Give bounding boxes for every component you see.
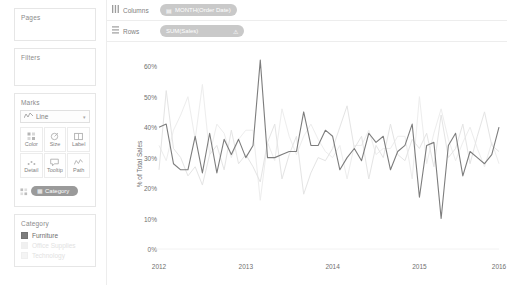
dimension-icon: ▦ bbox=[37, 188, 43, 194]
rows-shelf-label: Rows bbox=[123, 28, 139, 35]
tableau-worksheet: Pages Filters Marks Line ▾ Color bbox=[0, 0, 507, 285]
marks-color-pill-label: Category bbox=[45, 188, 69, 194]
marks-color-shelf-row: ▦ Category bbox=[20, 183, 90, 199]
pages-card-title: Pages bbox=[20, 13, 90, 24]
calendar-icon: ▤ bbox=[166, 7, 172, 14]
pages-card[interactable]: Pages bbox=[14, 8, 96, 41]
legend-item-label: Technology bbox=[32, 252, 65, 259]
label-icon bbox=[74, 132, 83, 141]
legend-item-label: Furniture bbox=[32, 232, 58, 239]
marks-color-button[interactable]: Color bbox=[20, 127, 43, 152]
columns-pill-month-order-date[interactable]: ▤ MONTH(Order Date) bbox=[160, 4, 237, 16]
color-shelf-icon bbox=[20, 183, 28, 199]
series-line-technology bbox=[159, 85, 499, 201]
columns-shelf[interactable]: Columns ▤ MONTH(Order Date) bbox=[107, 0, 507, 21]
line-mark-icon bbox=[24, 113, 33, 120]
x-axis-tick-label: 2013 bbox=[239, 263, 253, 270]
marks-detail-button[interactable]: Detail bbox=[20, 153, 43, 178]
x-axis-tick-label: 2015 bbox=[412, 263, 426, 270]
legend-swatch bbox=[21, 232, 28, 239]
marks-card-title: Marks bbox=[20, 98, 90, 109]
columns-shelf-label: Columns bbox=[123, 7, 149, 14]
rows-icon bbox=[112, 26, 119, 36]
marks-buttons-grid: Color Size Label bbox=[20, 127, 90, 178]
mark-type-dropdown[interactable]: Line ▾ bbox=[20, 110, 90, 123]
marks-path-button[interactable]: Path bbox=[67, 153, 90, 178]
worksheet-pane: Columns ▤ MONTH(Order Date) Rows SUM(Sal… bbox=[106, 0, 507, 285]
line-chart-plot bbox=[107, 43, 507, 285]
columns-icon bbox=[112, 5, 119, 15]
mark-type-label: Line bbox=[36, 113, 83, 120]
marks-tooltip-button[interactable]: Tooltip bbox=[44, 153, 67, 178]
columns-shelf-name: Columns bbox=[112, 5, 160, 15]
legend-swatch bbox=[21, 252, 28, 259]
legend-swatch bbox=[21, 242, 28, 249]
legend-item-office-supplies[interactable]: Office Supplies bbox=[20, 240, 90, 250]
marks-color-label: Color bbox=[25, 142, 38, 148]
marks-detail-label: Detail bbox=[24, 168, 38, 174]
columns-pill-label: MONTH(Order Date) bbox=[175, 7, 231, 13]
color-icon bbox=[27, 132, 36, 141]
tooltip-icon bbox=[50, 158, 59, 167]
rows-shelf-name: Rows bbox=[112, 26, 160, 36]
size-icon bbox=[50, 132, 59, 141]
legend-title: Category bbox=[20, 219, 90, 230]
marks-path-label: Path bbox=[73, 168, 84, 174]
chart-canvas[interactable]: % of Total Sales 0%10%20%30%40%50%60% 20… bbox=[107, 43, 507, 285]
filters-card-title: Filters bbox=[20, 53, 90, 64]
marks-tooltip-label: Tooltip bbox=[47, 168, 63, 174]
series-line-office-supplies bbox=[159, 91, 499, 195]
detail-icon bbox=[27, 158, 36, 167]
path-icon bbox=[74, 158, 83, 167]
marks-label-label: Label bbox=[72, 142, 85, 148]
category-legend-card: Category Furniture Office Supplies Techn… bbox=[14, 214, 96, 267]
filters-card[interactable]: Filters bbox=[14, 48, 96, 86]
rows-pill-sum-sales[interactable]: SUM(Sales) ⚠ bbox=[160, 25, 244, 37]
marks-card: Marks Line ▾ Color bbox=[14, 93, 96, 207]
x-axis-tick-label: 2014 bbox=[325, 263, 339, 270]
legend-item-technology[interactable]: Technology bbox=[20, 250, 90, 260]
legend-item-label: Office Supplies bbox=[32, 242, 76, 249]
marks-size-label: Size bbox=[50, 142, 61, 148]
marks-label-button[interactable]: Label bbox=[67, 127, 90, 152]
x-axis-tick-label: 2012 bbox=[152, 263, 166, 270]
warning-icon[interactable]: ⚠ bbox=[233, 28, 238, 35]
marks-size-button[interactable]: Size bbox=[44, 127, 67, 152]
sidebar: Pages Filters Marks Line ▾ Color bbox=[0, 0, 106, 285]
rows-pill-label: SUM(Sales) bbox=[166, 28, 198, 34]
rows-shelf[interactable]: Rows SUM(Sales) ⚠ bbox=[107, 21, 507, 42]
marks-color-pill-category[interactable]: ▦ Category bbox=[31, 186, 78, 196]
chevron-down-icon[interactable]: ▾ bbox=[83, 114, 86, 120]
legend-item-furniture[interactable]: Furniture bbox=[20, 230, 90, 240]
x-axis-tick-label: 2016 bbox=[492, 263, 506, 270]
